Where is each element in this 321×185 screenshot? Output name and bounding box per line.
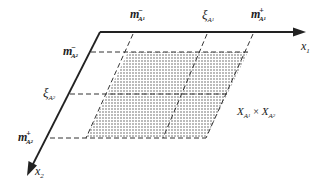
label-xi-a1: ξA1 xyxy=(202,8,214,21)
x1-axis-arrowhead-icon xyxy=(293,28,306,37)
label-xi-a2: ξA2 xyxy=(43,86,55,99)
cartesian-product-diagram: m−A1 ξA1 m+A1 m−A2 ξA2 m+A2 x1 x2 XA1 × … xyxy=(0,0,321,185)
label-x2-axis: x2 xyxy=(35,165,44,177)
shaded-product-region xyxy=(86,52,248,138)
label-m-a1-plus: m+A1 xyxy=(251,8,266,20)
label-x1-axis: x1 xyxy=(301,40,310,52)
label-product-region: XA1 × XA2 xyxy=(237,106,275,117)
label-m-a2-plus: m+A2 xyxy=(18,131,33,143)
label-m-a2-minus: m−A2 xyxy=(63,45,78,57)
label-m-a1-minus: m−A1 xyxy=(130,8,145,20)
